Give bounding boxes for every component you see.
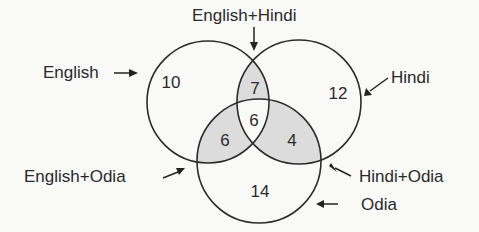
hindi-odia-count: 4 [287,131,296,150]
odia-label: Odia [361,195,397,214]
hindi-only-count: 12 [329,84,348,103]
odia-only-count: 14 [251,182,270,201]
english-odia-arrow-icon [163,168,185,178]
odia-arrow-icon [316,200,338,208]
english-arrow-icon [114,69,138,77]
hindi-label: Hindi [391,68,430,87]
english-only-count: 10 [162,73,181,92]
english-hindi-count: 7 [250,79,259,98]
venn-diagram: 10 12 14 7 6 4 6 English+Hindi English H… [0,0,479,232]
english-label: English [43,63,99,82]
all-three-count: 6 [249,111,258,130]
english-odia-count: 6 [220,131,229,150]
english-hindi-label: English+Hindi [192,6,296,25]
hindi-odia-label: Hindi+Odia [359,167,444,186]
hindi-arrow-icon [364,78,388,96]
hindi-odia-arrow-icon [329,163,351,176]
english-odia-label: English+Odia [24,167,126,186]
english-hindi-arrow-icon [250,27,258,51]
